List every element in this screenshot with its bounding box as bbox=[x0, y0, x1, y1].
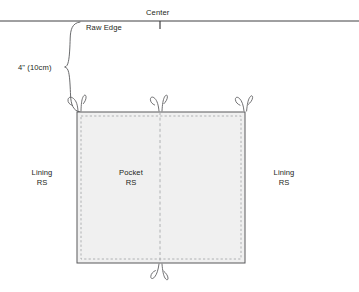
diagram-canvas bbox=[0, 0, 359, 292]
label-pocket-line2: RS bbox=[101, 178, 161, 188]
label-pocket-line1: Pocket bbox=[101, 168, 161, 178]
label-lining-left: Lining RS bbox=[14, 168, 70, 189]
label-dimension: 4" (10cm) bbox=[18, 63, 52, 73]
label-lining-left-line1: Lining bbox=[14, 168, 70, 178]
label-raw-edge: Raw Edge bbox=[86, 23, 122, 33]
label-lining-right-line1: Lining bbox=[256, 168, 312, 178]
label-lining-right-line2: RS bbox=[256, 178, 312, 188]
label-lining-left-line2: RS bbox=[14, 178, 70, 188]
thread-tail-bottom-center bbox=[151, 264, 168, 280]
label-center: Center bbox=[146, 8, 169, 18]
dimension-brace bbox=[65, 22, 80, 112]
thread-tail-top-center bbox=[150, 95, 167, 111]
thread-tail-top-left bbox=[68, 95, 86, 111]
label-pocket: Pocket RS bbox=[101, 168, 161, 189]
sewing-diagram: Center Raw Edge 4" (10cm) Pocket RS Lini… bbox=[0, 0, 359, 292]
thread-tail-top-right bbox=[235, 96, 252, 111]
label-lining-right: Lining RS bbox=[256, 168, 312, 189]
